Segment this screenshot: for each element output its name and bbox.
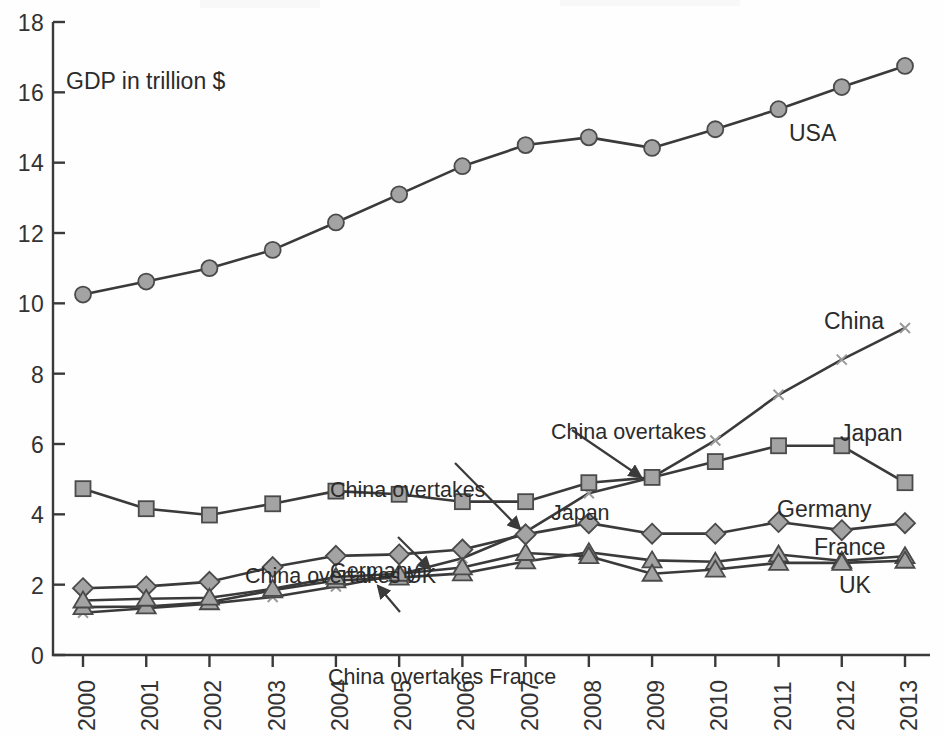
annotation-china-overtakes-japan: China overtakes Japan [551, 365, 706, 581]
data-point-uk [516, 544, 535, 560]
annotation-line: China overtakes [551, 419, 706, 446]
series-label-uk: UK [839, 572, 871, 599]
y-tick-12: 12 [2, 221, 44, 248]
data-point-usa [644, 140, 660, 156]
x-tick-2012: 2012 [833, 680, 860, 731]
annotation-line: China overtakes [330, 477, 485, 504]
data-point-germany [705, 524, 725, 544]
x-tick-2000: 2000 [74, 680, 101, 731]
data-point-japan [518, 494, 533, 509]
data-point-usa [518, 137, 534, 153]
axis-title: GDP in trillion $ [66, 68, 225, 95]
chart-axes [53, 22, 930, 667]
y-tick-0: 0 [2, 643, 44, 670]
data-point-china [837, 355, 847, 365]
annotation-line: China overtakes UK [245, 563, 436, 590]
data-point-germany [895, 513, 915, 533]
data-point-usa [265, 242, 281, 258]
data-point-usa [707, 121, 723, 137]
x-tick-2009: 2009 [643, 680, 670, 731]
y-tick-8: 8 [2, 362, 44, 389]
series-label-france: France [814, 534, 886, 561]
x-tick-2008: 2008 [580, 680, 607, 731]
x-tick-2011: 2011 [770, 682, 797, 731]
series-uk [74, 544, 915, 607]
data-point-usa [897, 58, 913, 74]
y-tick-14: 14 [2, 150, 44, 177]
y-tick-6: 6 [2, 432, 44, 459]
x-tick-2002: 2002 [200, 680, 227, 731]
data-point-usa [328, 214, 344, 230]
data-point-china [774, 390, 784, 400]
chart-figure: 18 16 14 12 10 8 6 4 2 0 2000 2001 2002 … [0, 0, 944, 736]
data-point-japan [771, 438, 786, 453]
data-point-usa [391, 186, 407, 202]
y-tick-16: 16 [2, 80, 44, 107]
series-label-germany: Germany [777, 496, 872, 523]
series-label-usa: USA [789, 120, 836, 147]
data-point-usa [201, 260, 217, 276]
series-label-japan: Japan [840, 420, 903, 447]
data-point-usa [771, 101, 787, 117]
data-point-china [710, 435, 720, 445]
annotation-line: China overtakes France [328, 664, 556, 691]
data-point-japan [708, 454, 723, 469]
x-tick-2010: 2010 [706, 680, 733, 731]
data-point-japan [139, 501, 154, 516]
data-point-usa [454, 158, 470, 174]
x-tick-2013: 2013 [896, 680, 923, 731]
x-tick-2003: 2003 [264, 680, 291, 731]
data-point-usa [138, 274, 154, 290]
data-point-usa [75, 287, 91, 303]
data-point-japan [76, 481, 91, 496]
y-tick-2: 2 [2, 573, 44, 600]
data-point-japan [898, 475, 913, 490]
y-tick-4: 4 [2, 502, 44, 529]
data-point-usa [834, 79, 850, 95]
series-china [78, 323, 910, 618]
y-tick-18: 18 [2, 10, 44, 37]
annotation-line: Japan [551, 500, 706, 527]
series-label-china: China [824, 308, 884, 335]
data-point-china [900, 323, 910, 333]
annotation-china-overtakes-france: China overtakes France [328, 610, 556, 736]
x-tick-2001: 2001 [137, 680, 164, 731]
data-point-usa [581, 129, 597, 145]
data-point-japan [202, 508, 217, 523]
y-tick-10: 10 [2, 291, 44, 318]
